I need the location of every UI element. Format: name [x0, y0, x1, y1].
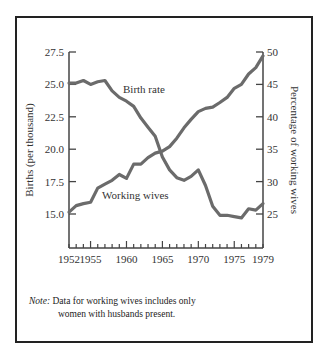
left-tick-label: 17.5: [45, 176, 65, 188]
note-line1: Data for working wives includes only: [52, 296, 195, 306]
x-tick-label: 1965: [151, 253, 174, 265]
working-wives-label: Working wives: [102, 189, 169, 201]
x-tick-label: 1979: [252, 253, 275, 265]
right-tick-label: 30: [267, 176, 279, 188]
right-tick-label: 50: [267, 46, 279, 58]
left-tick-label: 25.0: [45, 78, 65, 90]
left-tick-label: 22.5: [45, 111, 65, 123]
left-axis-title: Births (per thousand): [23, 103, 36, 197]
right-axis-title: Percentage of working wives: [289, 86, 301, 214]
right-tick-label: 45: [267, 78, 279, 90]
right-tick-label: 40: [267, 111, 279, 123]
x-tick-label: 1960: [115, 253, 138, 265]
note-line2: women with husbands present.: [29, 308, 196, 321]
chart-note: Note: Data for working wives includes on…: [29, 295, 196, 321]
x-tick-label: 1975: [223, 253, 246, 265]
right-tick-label: 35: [267, 143, 279, 155]
left-tick-label: 15.0: [45, 208, 65, 220]
x-tick-label: 1952: [58, 253, 80, 265]
left-tick-label: 27.5: [45, 46, 65, 58]
birth-rate-label: Birth rate: [123, 83, 165, 95]
x-tick-label: 1955: [80, 253, 103, 265]
note-label: Note:: [29, 296, 50, 306]
right-tick-label: 25: [267, 208, 279, 220]
axis-labels: Births (per thousand) Percentage of work…: [23, 83, 301, 214]
left-tick-label: 20.0: [45, 143, 65, 155]
x-tick-label: 1970: [187, 253, 210, 265]
